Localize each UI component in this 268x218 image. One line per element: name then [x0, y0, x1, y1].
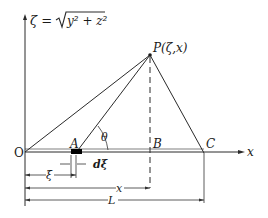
dim-x-arrow-right-icon — [145, 187, 150, 190]
element-dxi-label: dξ — [93, 158, 108, 171]
dim-L-arrow-left-icon — [25, 199, 30, 202]
vertical-axis-label-lhs: ζ = — [30, 13, 52, 28]
point-C-label: C — [206, 137, 215, 151]
vertical-axis-arrow-icon — [23, 14, 27, 20]
diagram-canvas: ζ = y² + z² P(ζ,x) O A B C x θ dξ ξ x L — [0, 0, 268, 218]
point-A-label: A — [69, 137, 79, 151]
dim-x-arrow-left-icon — [25, 187, 30, 190]
dim-xi-arrow-right-icon — [71, 174, 76, 177]
dim-xi-arrow-left-icon — [25, 174, 30, 177]
point-P-marker — [148, 53, 152, 57]
diagram: ζ = y² + z² P(ζ,x) O A B C x θ dξ ξ x L — [0, 0, 268, 218]
point-B-label: B — [152, 137, 162, 151]
point-P-label: P(ζ,x) — [152, 41, 188, 55]
origin-label: O — [14, 146, 24, 160]
horizontal-axis-label: x — [247, 145, 254, 159]
dim-x-label: x — [116, 182, 123, 195]
dim-L-label: L — [107, 194, 115, 207]
dim-xi-label: ξ — [46, 169, 53, 182]
dim-L-arrow-right-icon — [199, 199, 204, 202]
horizontal-axis-arrow-icon — [238, 150, 245, 154]
vertical-axis-label-radicand: y² + z² — [66, 14, 108, 28]
angle-theta-label: θ — [101, 131, 108, 144]
